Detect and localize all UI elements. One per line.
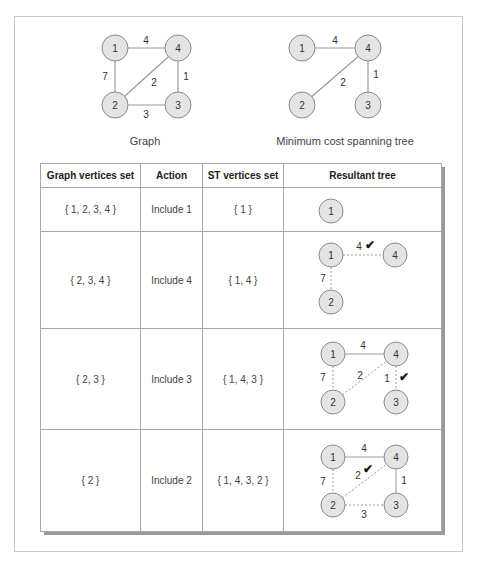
cell-graph-set: { 2 } <box>41 430 141 532</box>
graph-node-4: 4 <box>165 35 191 61</box>
tree-weight-1-2: 7 <box>320 372 326 383</box>
tree-node-3: 3 <box>384 493 408 517</box>
graph-weight-4-3: 1 <box>183 71 189 82</box>
cell-action: Include 2 <box>141 430 203 532</box>
cell-st-set: { 1, 4, 3, 2 } <box>203 430 284 532</box>
svg-text:4: 4 <box>392 250 398 261</box>
svg-text:4: 4 <box>393 452 399 463</box>
svg-text:2: 2 <box>330 397 336 408</box>
svg-text:2: 2 <box>299 100 305 111</box>
svg-text:3: 3 <box>393 500 399 511</box>
tree-node-2: 2 <box>321 390 345 414</box>
cell-graph-set: { 1, 2, 3, 4 } <box>41 188 141 232</box>
tree-node-4: 4 <box>384 342 408 366</box>
graph-weight-1-4: 4 <box>143 35 149 46</box>
tree-node-1: 1 <box>319 199 343 223</box>
header-st-vertices-set: ST vertices set <box>203 164 284 188</box>
svg-text:2: 2 <box>330 500 336 511</box>
tree-weight-1-4: 4 <box>360 340 366 351</box>
svg-text:1: 1 <box>299 43 305 54</box>
cell-action: Include 3 <box>141 329 203 430</box>
mst-weight-1-4: 4 <box>332 35 338 46</box>
tree-step-1: 1 <box>284 188 442 232</box>
table-row: { 2, 3 } Include 3 { 1, 4, 3 } 4 7 2 <box>41 329 442 430</box>
cell-action: Include 1 <box>141 188 203 232</box>
mst-node-4: 4 <box>355 35 381 61</box>
header-action: Action <box>141 164 203 188</box>
mst-weight-4-3: 1 <box>373 69 379 80</box>
tree-weight-1-4: 4 <box>356 241 362 252</box>
cell-graph-set: { 2, 3 } <box>41 329 141 430</box>
tree-node-4: 4 <box>383 243 407 267</box>
tree-step-2: 4 ✔ 7 1 4 2 <box>284 232 442 329</box>
graph-weight-2-3: 3 <box>143 109 149 120</box>
check-icon: ✔ <box>363 462 373 476</box>
tree-weight-1-2: 7 <box>320 476 326 487</box>
tree-node-1: 1 <box>321 445 345 469</box>
cell-st-set: { 1, 4, 3 } <box>203 329 284 430</box>
svg-text:4: 4 <box>175 43 181 54</box>
mst-diagram: 4 2 1 1 4 2 3 <box>289 35 381 118</box>
tree-weight-2-4: 2 <box>355 470 361 481</box>
svg-text:4: 4 <box>393 349 399 360</box>
tree-weight-1-4: 4 <box>361 443 367 454</box>
svg-text:3: 3 <box>365 100 371 111</box>
table-row: { 2, 3, 4 } Include 4 { 1, 4 } 4 ✔ 7 1 4 <box>41 232 442 329</box>
svg-text:1: 1 <box>328 206 334 217</box>
header-graph-vertices-set: Graph vertices set <box>41 164 141 188</box>
graph-weight-2-4: 2 <box>151 77 157 88</box>
cell-graph-set: { 2, 3, 4 } <box>41 232 141 329</box>
svg-text:3: 3 <box>175 100 181 111</box>
cell-st-set: { 1 } <box>203 188 284 232</box>
cell-resultant-tree: 1 <box>284 188 442 232</box>
tree-node-2: 2 <box>321 493 345 517</box>
graph-node-3: 3 <box>165 92 191 118</box>
cell-st-set: { 1, 4 } <box>203 232 284 329</box>
table-row: { 1, 2, 3, 4 } Include 1 { 1 } 1 <box>41 188 442 232</box>
graph-caption: Graph <box>110 135 180 147</box>
graph-node-2: 2 <box>102 92 128 118</box>
tree-weight-4-3: 1 <box>384 373 390 384</box>
table-header-row: Graph vertices set Action ST vertices se… <box>41 164 442 188</box>
tree-node-2: 2 <box>319 290 343 314</box>
tree-weight-4-3: 1 <box>401 475 407 486</box>
check-icon: ✔ <box>399 370 409 384</box>
svg-text:1: 1 <box>328 250 334 261</box>
tree-weight-1-2: 7 <box>320 273 326 284</box>
tree-node-3: 3 <box>384 390 408 414</box>
graph-weight-1-2: 7 <box>102 71 108 82</box>
svg-text:1: 1 <box>330 452 336 463</box>
check-icon: ✔ <box>365 238 375 252</box>
svg-text:3: 3 <box>393 397 399 408</box>
svg-text:2: 2 <box>328 297 334 308</box>
header-resultant-tree: Resultant tree <box>284 164 442 188</box>
cell-resultant-tree: 4 7 2 1 ✔ 1 4 2 3 <box>284 329 442 430</box>
tree-node-1: 1 <box>321 342 345 366</box>
mst-node-3: 3 <box>355 92 381 118</box>
svg-text:2: 2 <box>112 100 118 111</box>
svg-text:4: 4 <box>365 43 371 54</box>
mst-node-2: 2 <box>289 92 315 118</box>
graph-node-1: 1 <box>102 35 128 61</box>
svg-text:1: 1 <box>330 349 336 360</box>
tree-weight-2-3: 3 <box>361 509 367 520</box>
table-row: { 2 } Include 2 { 1, 4, 3, 2 } <box>41 430 442 532</box>
cell-resultant-tree: 4 ✔ 7 1 4 2 <box>284 232 442 329</box>
cell-action: Include 4 <box>141 232 203 329</box>
graph-diagram: 4 7 2 1 3 1 4 2 3 <box>102 35 191 120</box>
tree-weight-2-4: 2 <box>357 370 363 381</box>
tree-node-4: 4 <box>384 445 408 469</box>
mst-caption: Minimum cost spanning tree <box>260 135 430 147</box>
tree-node-1: 1 <box>319 243 343 267</box>
mst-weight-2-4: 2 <box>340 77 346 88</box>
cell-resultant-tree: 4 1 7 2 ✔ 3 1 4 2 3 <box>284 430 442 532</box>
svg-text:1: 1 <box>112 43 118 54</box>
tree-step-3: 4 7 2 1 ✔ 1 4 2 3 <box>284 329 442 430</box>
mst-node-1: 1 <box>289 35 315 61</box>
tree-step-4: 4 1 7 2 ✔ 3 1 4 2 3 <box>284 430 442 532</box>
prim-steps-table: Graph vertices set Action ST vertices se… <box>40 163 441 531</box>
